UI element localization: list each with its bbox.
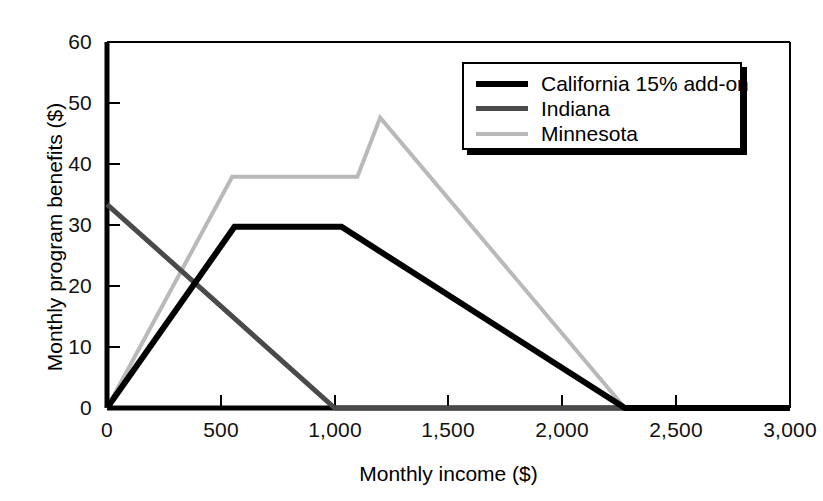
legend-item-minnesota[interactable]: Minnesota [464, 121, 740, 146]
x-tick-label-1000: 1,000 [308, 418, 362, 442]
legend-swatch-indiana-icon [476, 106, 528, 111]
legend-swatch-california-icon [476, 81, 528, 87]
series-line-california [107, 227, 790, 408]
legend-item-california[interactable]: California 15% add-on [464, 71, 740, 96]
x-tick-label-2500: 2,500 [649, 418, 703, 442]
y-tick-label-60: 60 [40, 30, 92, 54]
x-tick-label-500: 500 [203, 418, 239, 442]
x-tick-label-3000: 3,000 [763, 418, 817, 442]
x-tick-label-0: 0 [101, 418, 113, 442]
legend-label-california: California 15% add-on [541, 73, 749, 94]
chart-figure: 60 50 40 30 20 10 0 0 500 1,000 1,500 2,… [0, 0, 823, 501]
series-line-indiana [107, 204, 790, 408]
legend-swatch-minnesota-icon [476, 132, 528, 136]
x-axis-title: Monthly income ($) [107, 462, 790, 486]
x-tick-label-1500: 1,500 [421, 418, 475, 442]
legend-item-indiana[interactable]: Indiana [464, 96, 740, 121]
legend-label-minnesota: Minnesota [541, 123, 638, 144]
legend-label-indiana: Indiana [541, 98, 610, 119]
y-axis-title: Monthly program benefits ($) [43, 72, 67, 402]
chart-legend: California 15% add-on Indiana Minnesota [462, 62, 742, 150]
x-tick-label-2000: 2,000 [535, 418, 589, 442]
